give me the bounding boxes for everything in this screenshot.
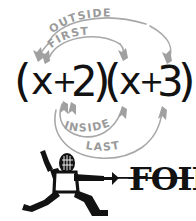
expression-left-variable: x xyxy=(31,59,54,103)
fencer-rear-arm xyxy=(40,150,53,172)
fencer-sword-arm xyxy=(74,174,104,181)
expression-left-paren: ( xyxy=(14,54,32,107)
last-arrow-right xyxy=(158,106,167,120)
foil-wordmark: FOIL xyxy=(129,160,196,198)
label-last: LAST xyxy=(85,139,122,154)
foil-grip xyxy=(100,177,112,180)
fencer-figure xyxy=(22,150,108,216)
foil-diagram-canvas: OUTSIDE FIRST INSIDE LAST ( x + 2 ) ( x … xyxy=(0,0,196,221)
foil-blade-overlay xyxy=(128,177,194,179)
foil-bell-guard xyxy=(112,172,119,185)
foil-diagram-artwork: OUTSIDE FIRST INSIDE LAST ( x + 2 ) ( x … xyxy=(0,0,196,221)
label-last-text: LAST xyxy=(85,139,122,154)
fencer-rear-leg xyxy=(22,190,60,212)
fencer-front-leg xyxy=(74,190,108,216)
expression-right-close-paren: ) xyxy=(178,54,196,107)
expression-group: ( x + 2 ) ( x + 3 ) xyxy=(14,54,196,107)
